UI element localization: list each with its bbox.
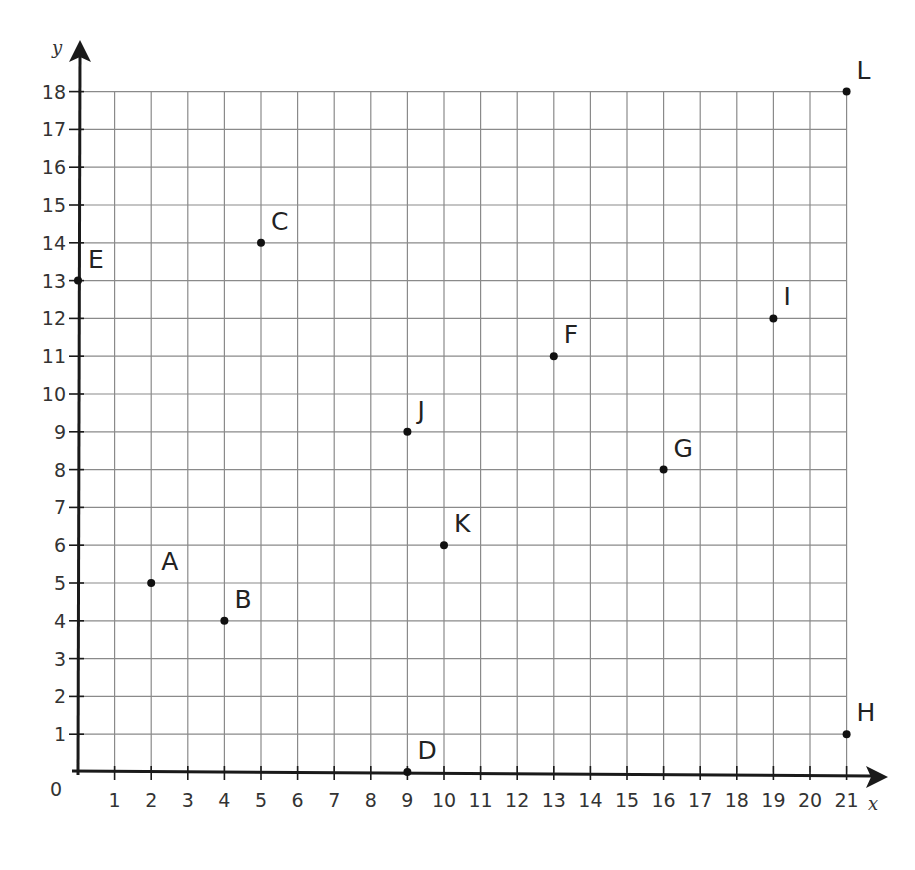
- point-l: [843, 88, 851, 96]
- x-tick-label: 1: [109, 789, 121, 811]
- x-tick-label: 18: [725, 789, 749, 811]
- point-j: [403, 428, 411, 436]
- y-tick-label: 16: [42, 156, 66, 178]
- y-tick-label: 9: [54, 421, 66, 443]
- point-g: [660, 466, 668, 474]
- y-tick-label: 17: [42, 118, 66, 140]
- x-tick-label: 13: [542, 789, 566, 811]
- axes: x y 0: [50, 37, 888, 814]
- x-tick-label: 4: [218, 789, 230, 811]
- x-tick-label: 9: [401, 789, 413, 811]
- y-tick-label: 6: [54, 534, 66, 556]
- point-b: [220, 617, 228, 625]
- y-tick-label: 12: [42, 307, 66, 329]
- y-axis-label: y: [51, 37, 63, 58]
- origin-label: 0: [50, 778, 62, 800]
- point-d: [403, 768, 411, 776]
- grid-lines: [78, 92, 847, 772]
- point-e: [74, 277, 82, 285]
- x-tick-label: 6: [292, 789, 304, 811]
- x-tick-label: 10: [432, 789, 456, 811]
- data-points: ABCDEFGHIJKL: [74, 56, 875, 776]
- x-tick-label: 11: [469, 789, 493, 811]
- x-axis: [72, 771, 872, 776]
- x-axis-label: x: [868, 793, 878, 814]
- point-h: [843, 730, 851, 738]
- point-label-k: K: [454, 509, 471, 538]
- y-tick-label: 18: [42, 81, 66, 103]
- x-tick-label: 21: [835, 789, 859, 811]
- point-label-l: L: [857, 56, 871, 85]
- y-tick-label: 2: [54, 685, 66, 707]
- x-tick-label: 12: [505, 789, 529, 811]
- point-label-j: J: [415, 396, 424, 425]
- x-tick-label: 15: [615, 789, 639, 811]
- x-tick-label: 5: [255, 789, 267, 811]
- point-label-d: D: [417, 736, 436, 765]
- point-label-f: F: [564, 320, 578, 349]
- point-k: [440, 541, 448, 549]
- y-tick-label: 8: [54, 459, 66, 481]
- x-tick-label: 14: [578, 789, 602, 811]
- x-tick-label: 17: [688, 789, 712, 811]
- point-label-c: C: [271, 207, 288, 236]
- x-tick-label: 20: [798, 789, 822, 811]
- x-tick-label: 3: [182, 789, 194, 811]
- y-tick-label: 13: [42, 270, 66, 292]
- point-label-e: E: [88, 245, 104, 274]
- point-label-a: A: [161, 547, 178, 576]
- y-tick-label: 14: [42, 232, 66, 254]
- point-label-i: I: [783, 282, 790, 311]
- y-axis: [78, 55, 80, 775]
- y-tick-label: 1: [54, 723, 66, 745]
- point-c: [257, 239, 265, 247]
- y-tick-label: 10: [42, 383, 66, 405]
- axis-ticks: 1234567891011121314151617181920211234567…: [42, 81, 859, 811]
- point-label-h: H: [857, 698, 876, 727]
- point-label-g: G: [674, 434, 693, 463]
- x-tick-label: 8: [365, 789, 377, 811]
- point-a: [147, 579, 155, 587]
- y-tick-label: 4: [54, 610, 66, 632]
- point-f: [550, 352, 558, 360]
- y-tick-label: 7: [54, 496, 66, 518]
- coordinate-grid-chart: x y 0 1234567891011121314151617181920211…: [0, 0, 915, 870]
- y-tick-label: 15: [42, 194, 66, 216]
- y-tick-label: 3: [54, 648, 66, 670]
- x-tick-label: 19: [761, 789, 785, 811]
- y-tick-label: 11: [42, 345, 66, 367]
- point-label-b: B: [234, 585, 251, 614]
- point-i: [769, 314, 777, 322]
- x-tick-label: 16: [652, 789, 676, 811]
- x-tick-label: 2: [145, 789, 157, 811]
- x-tick-label: 7: [328, 789, 340, 811]
- y-tick-label: 5: [54, 572, 66, 594]
